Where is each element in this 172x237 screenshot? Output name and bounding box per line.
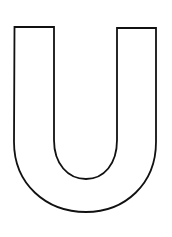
letter-u-outline <box>0 0 172 237</box>
coloring-page-canvas: U <box>0 0 172 237</box>
letter-u-shape <box>14 27 156 212</box>
